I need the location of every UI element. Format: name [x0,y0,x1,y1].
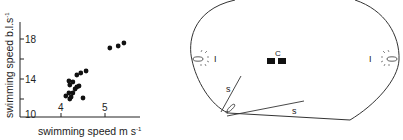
segment-label-1: s [226,84,231,94]
y-tick-label: 10 [25,109,37,120]
data-point [116,44,121,49]
light-label-right: I [369,54,372,64]
y-axis-label: swimming speed b.l.s-1 [3,12,15,118]
chart-axes [20,22,140,117]
x-ticks: 45 [58,102,108,117]
bulb-icon [387,57,397,61]
scatter-chart: 101418 45 swimming speed b.l.s-1 swimmin… [0,0,403,140]
center-block-right [278,58,286,64]
center-block-left [267,58,275,64]
x-axis-label: swimming speed m s-1 [38,125,142,137]
data-point [78,71,83,76]
light-label-left: I [214,54,217,64]
data-points [63,41,126,102]
x-tick-label: 4 [58,102,64,113]
data-point [122,41,127,46]
light-source-left: I [193,50,217,66]
data-point [70,80,75,85]
data-point [84,69,89,74]
segment-label-2: s [292,106,297,116]
bulb-icon [193,57,203,61]
x-tick-label: 5 [102,102,108,113]
arena-diagram: I I C s s [191,0,399,120]
y-tick-label: 14 [25,74,37,85]
y-ticks: 101418 [20,34,37,121]
data-point [77,84,82,89]
light-source-right: I [369,50,397,66]
center-label: C [275,49,281,58]
data-point [81,96,86,101]
y-tick-label: 18 [25,34,37,45]
data-point [107,46,112,51]
arena-outline [191,0,399,120]
